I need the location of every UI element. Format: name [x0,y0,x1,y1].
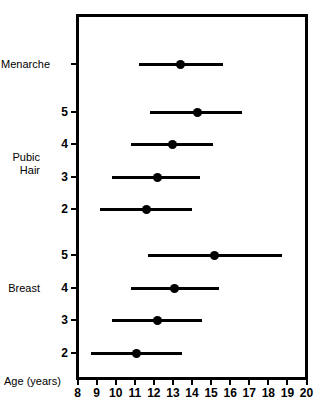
x-tick-label-10: 10 [106,387,126,400]
y-tick-breast-3 [71,319,76,321]
mean-marker-breast-5 [210,251,219,260]
x-tick-11 [134,380,136,385]
x-tick-12 [153,380,155,385]
group-label-pubic-hair: Pubic Hair [0,151,40,176]
mean-marker-menarche [176,60,185,69]
x-tick-20 [306,380,308,385]
x-tick-16 [229,380,231,385]
plot-area: 891011121314151617181920 54325432 [76,14,308,380]
range-interval-chart: Age (years) Menarche Pubic Hair Breast 8… [0,0,327,410]
mean-marker-pubic-hair-2 [142,205,151,214]
mean-marker-breast-2 [132,349,141,358]
x-tick-label-14: 14 [182,387,202,400]
y-tick-pubic-hair-5 [71,111,76,113]
y-tick-label-pubic-hair-4: 4 [54,138,68,150]
y-tick-menarche [71,63,76,65]
x-tick-label-9: 9 [87,387,107,400]
x-tick-label-19: 19 [277,387,297,400]
x-tick-label-11: 11 [125,387,145,400]
y-tick-label-pubic-hair-2: 2 [54,203,68,215]
y-tick-breast-4 [71,287,76,289]
x-tick-label-8: 8 [68,387,88,400]
mean-marker-pubic-hair-3 [153,173,162,182]
x-tick-15 [210,380,212,385]
y-tick-breast-2 [71,352,76,354]
x-axis-title: Age (years) [4,375,61,387]
y-tick-label-breast-4: 4 [54,282,68,294]
x-tick-14 [191,380,193,385]
y-tick-label-pubic-hair-3: 3 [54,171,68,183]
axis-frame-right [305,14,308,380]
mean-marker-pubic-hair-5 [193,108,202,117]
y-tick-label-breast-5: 5 [54,249,68,261]
mean-marker-pubic-hair-4 [168,140,177,149]
mean-marker-breast-4 [170,284,179,293]
x-tick-label-18: 18 [258,387,278,400]
x-tick-label-12: 12 [144,387,164,400]
y-tick-label-breast-3: 3 [54,314,68,326]
x-tick-label-15: 15 [201,387,221,400]
y-tick-breast-5 [71,254,76,256]
x-tick-label-20: 20 [297,387,317,400]
x-tick-19 [286,380,288,385]
x-tick-label-13: 13 [163,387,183,400]
x-tick-8 [77,380,79,385]
y-tick-label-pubic-hair-5: 5 [54,106,68,118]
x-tick-label-16: 16 [220,387,240,400]
y-tick-pubic-hair-2 [71,208,76,210]
x-tick-10 [115,380,117,385]
y-tick-pubic-hair-4 [71,143,76,145]
x-tick-13 [172,380,174,385]
group-label-breast: Breast [0,282,40,295]
mean-marker-breast-3 [153,316,162,325]
axis-frame-top [76,14,308,17]
x-tick-17 [248,380,250,385]
x-tick-18 [267,380,269,385]
x-tick-label-17: 17 [239,387,259,400]
x-tick-9 [96,380,98,385]
y-tick-label-breast-2: 2 [54,347,68,359]
group-label-menarche: Menarche [0,58,50,71]
y-tick-pubic-hair-3 [71,176,76,178]
y-axis-spine [76,14,79,380]
